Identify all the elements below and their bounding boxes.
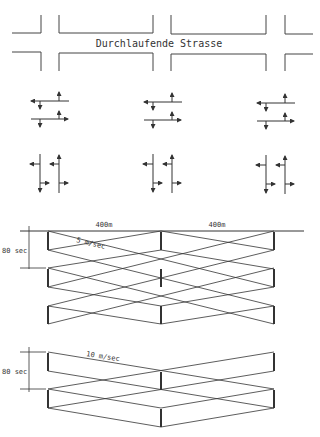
traffic-signal-diagram: Durchlaufende Strasse xyxy=(0,0,320,437)
street-label: Durchlaufende Strasse xyxy=(96,38,222,49)
cycle-label-lower: 80 sec xyxy=(2,368,27,376)
time-space-diagram-upper xyxy=(20,226,304,324)
cycle-label-upper: 80 sec xyxy=(2,247,27,255)
distance-label-1: 400m xyxy=(96,221,113,229)
speed-label-upper: 5 m/sec xyxy=(76,236,107,251)
distance-label-2: 400m xyxy=(209,221,226,229)
time-space-diagram-lower xyxy=(20,347,274,427)
phase-icons xyxy=(30,92,295,194)
